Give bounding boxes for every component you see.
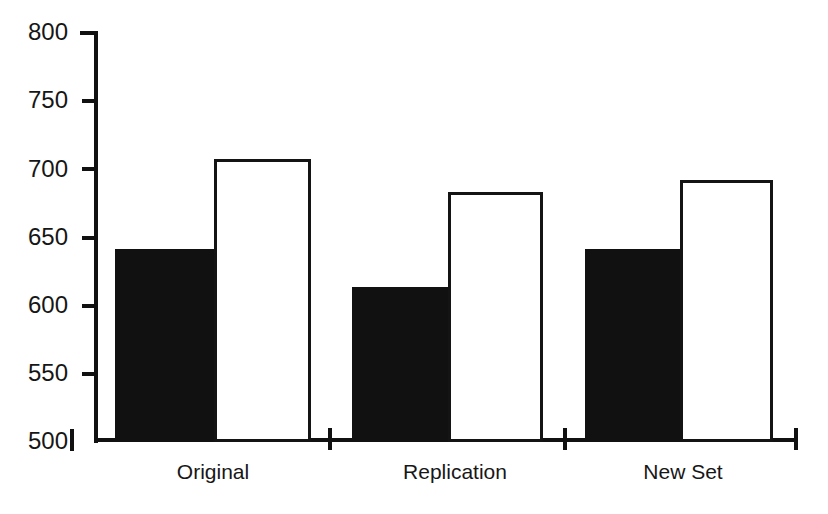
y-axis-label-700: 700 (0, 157, 68, 181)
y-axis-tick-500 (70, 429, 74, 451)
x-axis-category-original: Original (153, 461, 273, 482)
bar-newset-filled (585, 249, 681, 442)
bar-original-filled (115, 249, 215, 442)
x-axis-tick-1 (328, 428, 332, 450)
y-axis-label-550: 550 (0, 361, 68, 385)
y-axis-tick-600 (82, 304, 98, 308)
y-axis-label-750: 750 (0, 88, 68, 112)
y-axis-label-650: 650 (0, 225, 68, 249)
y-axis-tick-650 (82, 236, 98, 240)
y-axis-label-500: 500 (0, 429, 68, 453)
plot-area: 800 750 700 650 600 550 500 Original Rep… (0, 0, 828, 514)
bar-chart: 800 750 700 650 600 550 500 Original Rep… (0, 0, 828, 514)
bar-newset-hollow (680, 180, 773, 442)
y-axis-tick-700 (82, 167, 98, 171)
x-axis-end-tick (794, 428, 798, 450)
x-axis-category-new-set: New Set (623, 461, 743, 482)
bar-replication-hollow (448, 192, 543, 442)
y-axis-label-800: 800 (0, 20, 68, 44)
bar-original-hollow (214, 159, 311, 442)
x-axis-tick-2 (563, 428, 567, 450)
bar-replication-filled (352, 287, 449, 442)
y-axis-top-tick (80, 31, 98, 35)
x-axis-category-replication: Replication (385, 461, 525, 482)
y-axis-tick-550 (82, 372, 98, 376)
y-axis-label-600: 600 (0, 293, 68, 317)
y-axis-tick-750 (82, 99, 98, 103)
